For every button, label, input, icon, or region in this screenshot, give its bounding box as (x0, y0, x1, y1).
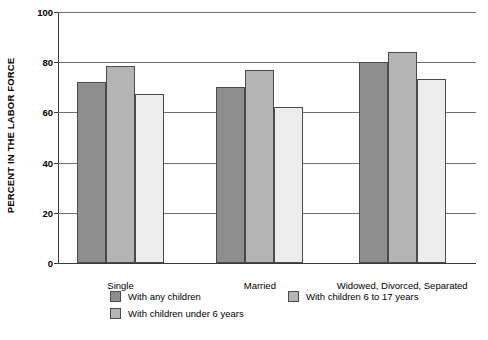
y-tick-label-60: 60 (42, 107, 53, 118)
bar-3-1 (359, 62, 388, 263)
y-tick-label-40: 40 (42, 157, 53, 168)
x-category-label-2: Married (244, 280, 276, 291)
bar-3-2 (388, 52, 417, 263)
x-category-label-1: Single (107, 280, 133, 291)
bar-group-2 (216, 12, 303, 263)
x-category-label-3: Widowed, Divorced, Separated (337, 280, 468, 291)
bar-1-1 (77, 82, 106, 263)
legend-label-1: With children under 6 years (128, 308, 244, 319)
y-tick-mark-0 (54, 263, 58, 264)
y-tick-mark-40 (54, 163, 58, 164)
bar-chart-figure: PERCENT IN THE LABOR FORCE 020406080100 … (0, 0, 488, 340)
y-tick-label-80: 80 (42, 57, 53, 68)
bar-2-2 (245, 70, 274, 263)
y-tick-mark-80 (54, 62, 58, 63)
y-axis-line (58, 12, 59, 264)
bar-2-3 (274, 107, 303, 263)
legend-swatch-icon-1 (110, 308, 121, 319)
y-axis-title: PERCENT IN THE LABOR FORCE (0, 0, 22, 270)
bar-3-3 (417, 79, 446, 263)
legend-item-with-any-children: With any children (110, 291, 201, 302)
y-tick-label-100: 100 (37, 7, 53, 18)
y-tick-mark-60 (54, 112, 58, 113)
bar-group-3 (359, 12, 446, 263)
chart-legend: With any children With children under 6 … (100, 291, 460, 327)
gridline-0 (58, 263, 476, 264)
legend-item-with-children-6-to-17: With children 6 to 17 years (288, 291, 418, 302)
plot-area: 020406080100 SingleMarriedWidowed, Divor… (58, 12, 476, 263)
y-tick-label-20: 20 (42, 207, 53, 218)
legend-item-with-children-under-6: With children under 6 years (110, 308, 244, 319)
y-tick-mark-100 (54, 12, 58, 13)
cut-off-footer-text (100, 333, 430, 340)
bar-1-2 (106, 66, 135, 263)
y-tick-label-0: 0 (48, 258, 53, 269)
bar-group-1 (77, 12, 164, 263)
bar-1-3 (135, 94, 164, 263)
y-tick-mark-20 (54, 213, 58, 214)
bar-2-1 (216, 87, 245, 263)
y-axis-title-text: PERCENT IN THE LABOR FORCE (6, 57, 17, 212)
legend-swatch-icon-0 (110, 291, 121, 302)
legend-swatch-icon-2 (288, 291, 299, 302)
legend-label-0: With any children (128, 291, 201, 302)
legend-label-2: With children 6 to 17 years (306, 291, 418, 302)
